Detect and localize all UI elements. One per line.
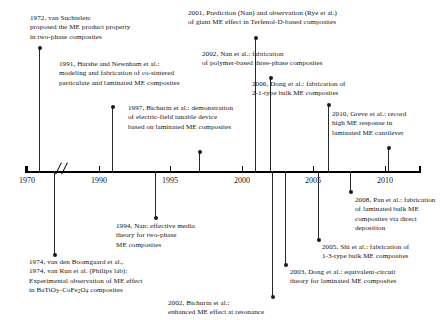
- axis-label-2010: 2010: [377, 176, 393, 185]
- axis-label-1995: 1995: [162, 176, 178, 185]
- entry-1972-van-suchtelen: 1972, van Suchtelen: proposed the ME pro…: [30, 14, 130, 42]
- entry-1997-bichurin: 1997, Bichurin et al.: demonstration of …: [128, 104, 233, 132]
- stem-1974: [54, 171, 55, 255]
- entry-1994-nan: 1994, Nan: effective media theory for tw…: [116, 222, 195, 250]
- entry-1991-harshe-newnham: 1991, Harshe and Newnham et al.: modelin…: [59, 60, 180, 88]
- axis-tick-1970: [27, 166, 28, 172]
- stem-2006: [328, 105, 329, 171]
- axis-tick-1990: [99, 166, 100, 172]
- entry-2002-nan: 2002, Nan et al.: fabrication of polymer…: [202, 50, 323, 69]
- stem-2002-bichurin: [272, 171, 273, 297]
- stem-1991: [112, 107, 113, 171]
- axis-tick-2010: [385, 166, 386, 172]
- entry-2006-dong: 2006, Dong et al.: fabrication of 2-1-ty…: [252, 80, 346, 99]
- entry-1974-formula: in BaTiO3–CoFe2O4 composites: [29, 286, 123, 294]
- axis-label-2000: 2000: [234, 176, 250, 185]
- formula-suffix: composites: [88, 286, 122, 294]
- axis-tick-2000: [242, 166, 243, 172]
- timeline-figure: 1970 1990 1995 2000 2005 2010 1972, van …: [0, 0, 445, 320]
- stem-2010: [388, 148, 389, 171]
- entry-2003-dong: 2003, Dong et al.: equivalent-circuit th…: [290, 268, 396, 287]
- axis-label-1970: 1970: [19, 176, 35, 185]
- entry-2002-bichurin: 2002, Bichurin et al.: enhanced ME effec…: [168, 299, 264, 318]
- entry-2010-greve: 2010, Greve et al.: record high ME respo…: [332, 110, 406, 138]
- stem-1972: [39, 48, 40, 171]
- stem-2005: [318, 171, 319, 240]
- axis-break-icon: [54, 162, 72, 176]
- entry-2005-shi: 2005, Shi et al.: fabrication of 1-3-typ…: [322, 243, 409, 262]
- entry-2001-nan-rye: 2001, Prediction (Nan) and observation (…: [188, 9, 337, 28]
- stem-2008: [350, 171, 351, 192]
- axis-right-cap: [419, 166, 421, 172]
- entry-1974-boomgaard-vanrun: 1974, van den Boomgaard et al., 1974, va…: [29, 258, 143, 296]
- axis-tick-2005: [313, 166, 314, 172]
- stem-1994: [155, 171, 156, 218]
- timeline-axis-line: [25, 171, 421, 173]
- axis-label-1990: 1990: [91, 176, 107, 185]
- formula-prefix: in BaTiO: [29, 286, 56, 294]
- entry-1974-lines: 1974, van den Boomgaard et al., 1974, va…: [29, 258, 143, 285]
- stem-2003: [285, 171, 286, 265]
- stem-1997: [199, 152, 200, 171]
- entry-2008-pan: 2008, Pan et al.: fabrication of laminat…: [355, 196, 435, 234]
- axis-tick-1995: [170, 166, 171, 172]
- formula-mid: –CoFe: [59, 286, 78, 294]
